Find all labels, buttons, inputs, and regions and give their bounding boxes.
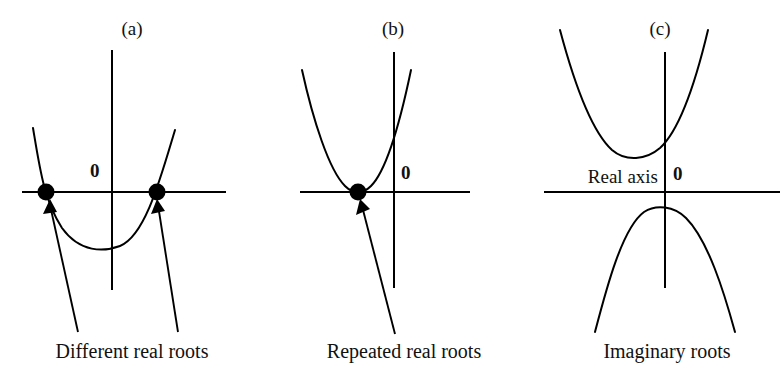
- panel-c-imaginary-roots: (c) Real axis 0 Imaginary roots: [522, 0, 783, 382]
- left-root-arrow-shaft: [50, 205, 78, 332]
- origin-label-c: 0: [673, 163, 683, 185]
- root-marker-left: [38, 184, 55, 201]
- panel-a-different-real-roots: (a) 0 Different real roots: [0, 0, 261, 382]
- real-axis-label: Real axis: [588, 166, 658, 188]
- repeated-root-arrow-shaft: [362, 206, 395, 334]
- panel-label-a: (a): [121, 18, 142, 40]
- left-root-arrow-head: [43, 199, 57, 214]
- quadratic-roots-figure: (a) 0 Different real roots (b) 0 Repeate…: [0, 0, 783, 382]
- caption-b: Repeated real roots: [327, 340, 481, 363]
- root-marker-right: [149, 184, 166, 201]
- caption-c: Imaginary roots: [603, 340, 730, 363]
- panel-b-repeated-real-roots: (b) 0 Repeated real roots: [261, 0, 522, 382]
- caption-a: Different real roots: [56, 340, 209, 363]
- panel-label-c: (c): [649, 18, 670, 40]
- right-root-arrow-head: [151, 199, 165, 214]
- panel-b-drawing: [261, 0, 522, 382]
- origin-label-a: 0: [90, 160, 100, 182]
- origin-label-b: 0: [401, 162, 411, 184]
- panel-label-b: (b): [382, 18, 404, 40]
- root-marker-repeated: [350, 184, 367, 201]
- upper-parabola-curve: [560, 30, 708, 158]
- panel-c-drawing: [522, 0, 783, 382]
- panel-a-drawing: [0, 0, 261, 382]
- right-root-arrow-shaft: [158, 205, 178, 332]
